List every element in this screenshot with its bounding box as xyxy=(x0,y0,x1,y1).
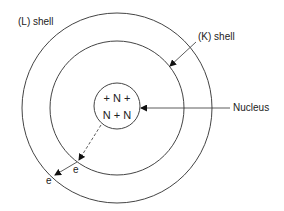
electron-k-label: e xyxy=(73,164,79,175)
atom-diagram: + N + N + N (L) shell (K) shell Nucleus … xyxy=(0,0,284,211)
electron-l-label: e xyxy=(46,175,52,186)
nucleus-circle xyxy=(94,83,140,129)
nucleus-text-line1: + N + xyxy=(104,92,131,104)
k-shell-label: (K) shell xyxy=(198,31,235,42)
l-shell-label: (L) shell xyxy=(18,16,54,27)
electron-dashed-path xyxy=(79,125,101,160)
k-shell-arrow xyxy=(170,42,196,66)
nucleus-label: Nucleus xyxy=(233,102,269,113)
nucleus-text-line2: N + N xyxy=(103,109,131,121)
